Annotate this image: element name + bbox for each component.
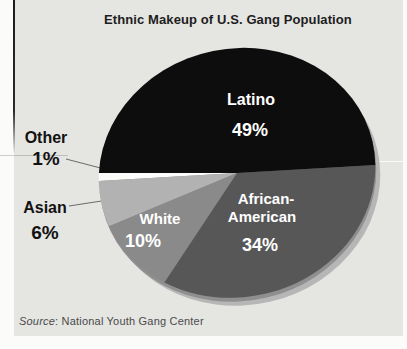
slice-latino bbox=[99, 48, 375, 173]
source-note: Source: National Youth Gang Center bbox=[19, 315, 204, 327]
pie-chart bbox=[0, 0, 407, 349]
slice-label-african-american-line1: African- bbox=[238, 191, 295, 206]
source-text: : National Youth Gang Center bbox=[55, 315, 204, 327]
slice-label-latino: Latino bbox=[227, 92, 275, 108]
slice-pct-latino: 49% bbox=[232, 121, 268, 139]
slice-pct-white: 10% bbox=[125, 232, 161, 250]
slice-label-other: Other bbox=[25, 130, 68, 146]
slice-pct-asian: 6% bbox=[31, 223, 58, 242]
slice-label-white: White bbox=[140, 211, 181, 226]
slice-pct-african-american: 34% bbox=[242, 236, 278, 254]
figure-page: Ethnic Makeup of U.S. Gang Population La… bbox=[0, 0, 407, 349]
slice-pct-other: 1% bbox=[32, 149, 59, 168]
source-prefix: Source bbox=[19, 315, 55, 327]
slice-label-asian: Asian bbox=[23, 200, 67, 216]
slice-label-african-american-line2: American bbox=[228, 209, 296, 224]
